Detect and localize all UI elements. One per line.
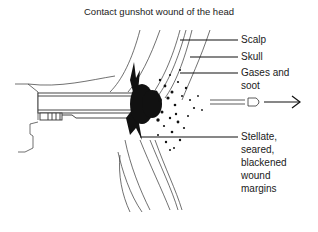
- label-gases-soot-line2: soot: [241, 80, 260, 93]
- leader-lines: [140, 40, 238, 137]
- label-wound-line3: blackened: [241, 157, 287, 170]
- hand-outline: [15, 76, 115, 152]
- label-gases-soot-line1: Gases and: [241, 67, 289, 80]
- label-wound-line1: Stellate,: [241, 131, 277, 144]
- soot-particles: [154, 69, 203, 151]
- bullet-trajectory: [210, 100, 245, 104]
- blackened-burst: [126, 62, 162, 140]
- label-wound-line4: wound: [241, 170, 270, 183]
- wound-illustration: [0, 0, 318, 232]
- arrow-icon: [264, 96, 300, 108]
- bullet-icon: [248, 98, 259, 106]
- label-scalp: Scalp: [241, 34, 266, 47]
- gun-barrel: [38, 93, 136, 120]
- label-skull: Skull: [241, 51, 263, 64]
- label-wound-line2: seared,: [241, 144, 274, 157]
- label-wound-line5: margins: [241, 183, 277, 196]
